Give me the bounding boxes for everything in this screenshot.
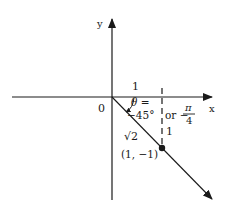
y-axis-label: y <box>96 18 103 29</box>
pi-denominator: 4 <box>186 115 192 126</box>
pi-numerator: π <box>184 102 192 113</box>
horizontal-leg-label: 1 <box>132 80 139 93</box>
point-label: (1, −1) <box>121 148 158 160</box>
hypotenuse-label: √2 <box>124 130 138 143</box>
unit-angle-diagram: y x 0 1 θ = −45° or − π 4 1 √2 (1, −1) <box>0 0 225 211</box>
vertical-leg-label: 1 <box>166 125 173 138</box>
origin-label: 0 <box>98 102 105 115</box>
x-axis-label: x <box>209 103 215 114</box>
point-marker <box>159 145 165 151</box>
angle-degrees-label: −45° <box>127 109 154 121</box>
theta-label: θ = <box>131 96 149 108</box>
